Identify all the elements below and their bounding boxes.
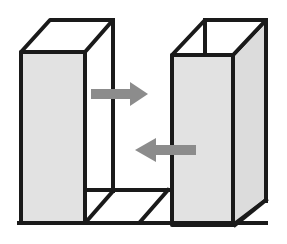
floor-diagonal-left	[86, 190, 114, 222]
right-slab-front-face	[172, 55, 233, 225]
arrow-right-shaft	[91, 89, 133, 99]
left-slab-front-face	[21, 52, 85, 223]
slab-box-diagram	[0, 0, 287, 244]
figure-container	[0, 0, 287, 244]
arrow-right-head	[130, 82, 148, 106]
arrow-right	[91, 82, 148, 106]
floor-diagonal-right	[140, 190, 168, 222]
arrow-left-shaft	[153, 145, 196, 155]
left-slab-top-face	[21, 20, 113, 52]
arrow-left-head	[135, 138, 156, 162]
